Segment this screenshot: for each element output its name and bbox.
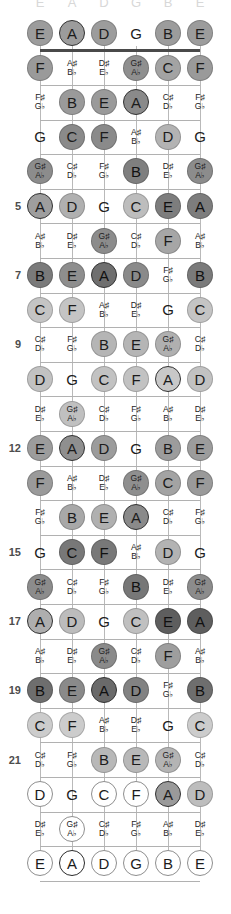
note-natural-B: B bbox=[155, 850, 181, 876]
note-label: G bbox=[66, 787, 78, 802]
guitar-fretboard-diagram: EADGBE 5791215171921 EADGBEFA♯B♭D♯E♭G♯A♭… bbox=[0, 0, 231, 914]
note-accidental-Dsharp: D♯E♭ bbox=[27, 816, 53, 842]
note-natural-G: G bbox=[155, 297, 181, 323]
note-natural-D: D bbox=[155, 539, 181, 565]
note-accidental-Csharp: C♯D♭ bbox=[123, 643, 149, 669]
note-natural-G: G bbox=[91, 193, 117, 219]
note-accidental-Fsharp: F♯G♭ bbox=[155, 262, 181, 288]
note-accidental-Gsharp: G♯A♭ bbox=[27, 158, 53, 184]
note-natural-A: A bbox=[187, 608, 213, 634]
note-natural-D: D bbox=[123, 677, 149, 703]
note-natural-F: F bbox=[123, 366, 149, 392]
header-strip: EADGBE bbox=[0, 0, 231, 14]
note-natural-F: F bbox=[91, 539, 117, 565]
accidental-label: A♯B♭ bbox=[35, 232, 45, 250]
note-accidental-Csharp: C♯D♭ bbox=[27, 747, 53, 773]
note-natural-G: G bbox=[123, 435, 149, 461]
note-accidental-Asharp: A♯B♭ bbox=[123, 124, 149, 150]
accidental-label: A♯B♭ bbox=[131, 128, 141, 146]
note-natural-A: A bbox=[155, 781, 181, 807]
accidental-label: D♯E♭ bbox=[67, 232, 77, 250]
note-label: A bbox=[195, 199, 205, 214]
note-label: C bbox=[35, 302, 46, 317]
note-natural-G: G bbox=[123, 850, 149, 876]
note-label: E bbox=[99, 95, 109, 110]
accidental-label: G♯A♭ bbox=[99, 232, 110, 250]
note-label: B bbox=[195, 268, 205, 283]
note-natural-C: C bbox=[123, 193, 149, 219]
note-natural-D: D bbox=[59, 193, 85, 219]
accidental-label: A♯B♭ bbox=[131, 543, 141, 561]
accidental-label: C♯D♭ bbox=[35, 751, 45, 769]
note-label: B bbox=[131, 164, 141, 179]
note-label: A bbox=[195, 614, 205, 629]
note-label: F bbox=[67, 302, 76, 317]
note-accidental-Dsharp: D♯E♭ bbox=[59, 643, 85, 669]
note-natural-A: A bbox=[59, 850, 85, 876]
note-label: G bbox=[98, 614, 110, 629]
note-natural-C: C bbox=[155, 470, 181, 496]
note-label: E bbox=[131, 752, 141, 767]
note-natural-D: D bbox=[91, 435, 117, 461]
fret-wire-line bbox=[40, 708, 200, 709]
note-natural-C: C bbox=[123, 608, 149, 634]
accidental-label: G♯A♭ bbox=[195, 578, 206, 596]
note-label: A bbox=[35, 614, 45, 629]
note-natural-D: D bbox=[27, 366, 53, 392]
note-natural-D: D bbox=[27, 781, 53, 807]
note-label: E bbox=[67, 683, 77, 698]
note-natural-E: E bbox=[27, 20, 53, 46]
accidental-label: C♯D♭ bbox=[163, 93, 173, 111]
note-label: E bbox=[67, 268, 77, 283]
fret-wire-line bbox=[40, 812, 200, 813]
note-natural-A: A bbox=[155, 366, 181, 392]
note-accidental-Asharp: A♯B♭ bbox=[187, 228, 213, 254]
accidental-label: F♯G♭ bbox=[35, 508, 46, 526]
note-accidental-Fsharp: F♯G♭ bbox=[91, 158, 117, 184]
note-natural-E: E bbox=[123, 747, 149, 773]
accidental-label: F♯G♭ bbox=[67, 751, 78, 769]
note-accidental-Dsharp: D♯E♭ bbox=[123, 297, 149, 323]
note-natural-B: B bbox=[59, 89, 85, 115]
header-string-label: E bbox=[187, 0, 213, 9]
fret-wire-line bbox=[40, 154, 200, 155]
note-natural-E: E bbox=[59, 677, 85, 703]
fret-wire-line bbox=[40, 500, 200, 501]
note-label: C bbox=[131, 199, 142, 214]
note-label: G bbox=[130, 26, 142, 41]
note-natural-A: A bbox=[91, 262, 117, 288]
note-natural-C: C bbox=[27, 712, 53, 738]
note-natural-F: F bbox=[59, 297, 85, 323]
accidental-label: C♯D♭ bbox=[163, 508, 173, 526]
note-accidental-Csharp: C♯D♭ bbox=[91, 401, 117, 427]
fret-number-5: 5 bbox=[0, 201, 21, 212]
accidental-label: D♯E♭ bbox=[35, 820, 45, 838]
note-natural-B: B bbox=[91, 747, 117, 773]
note-label: F bbox=[163, 648, 172, 663]
note-label: E bbox=[163, 199, 173, 214]
fret-wire-line bbox=[40, 742, 200, 743]
note-label: B bbox=[163, 441, 173, 456]
note-natural-E: E bbox=[187, 435, 213, 461]
note-label: C bbox=[67, 545, 78, 560]
note-natural-C: C bbox=[91, 366, 117, 392]
note-accidental-Fsharp: F♯G♭ bbox=[27, 89, 53, 115]
note-natural-B: B bbox=[91, 331, 117, 357]
note-accidental-Csharp: C♯D♭ bbox=[187, 747, 213, 773]
note-natural-C: C bbox=[91, 781, 117, 807]
note-natural-E: E bbox=[155, 193, 181, 219]
note-natural-C: C bbox=[187, 712, 213, 738]
fret-wire-line bbox=[40, 777, 200, 778]
accidental-label: C♯D♭ bbox=[35, 335, 45, 353]
note-label: C bbox=[195, 302, 206, 317]
note-label: B bbox=[35, 268, 45, 283]
note-natural-E: E bbox=[123, 331, 149, 357]
note-natural-B: B bbox=[155, 435, 181, 461]
accidental-label: D♯E♭ bbox=[163, 162, 173, 180]
note-natural-E: E bbox=[91, 89, 117, 115]
note-natural-A: A bbox=[123, 504, 149, 530]
note-natural-G: G bbox=[187, 539, 213, 565]
note-natural-D: D bbox=[91, 850, 117, 876]
note-label: E bbox=[35, 441, 45, 456]
note-accidental-Gsharp: G♯A♭ bbox=[155, 331, 181, 357]
